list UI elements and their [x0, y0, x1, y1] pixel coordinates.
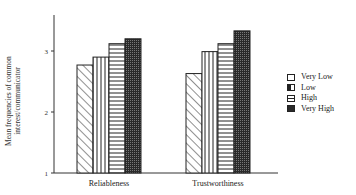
legend-swatch-diagonal-icon	[287, 74, 295, 81]
legend-swatch-vertical-icon	[287, 84, 295, 91]
legend-item-high: High	[287, 93, 334, 104]
bar-reliableness-very-low	[77, 65, 93, 173]
legend: Very Low Low High Very High	[287, 72, 334, 114]
x-axis-labels: ReliablenessTrustworthiness	[89, 179, 244, 188]
y-tick-label: 3	[45, 48, 49, 56]
legend-item-very-low: Very Low	[287, 72, 334, 83]
bar-trustworthiness-very-high	[234, 31, 250, 173]
bar-trustworthiness-high	[218, 44, 234, 173]
x-category-label: Trustworthiness	[192, 179, 243, 188]
y-axis-label: Mean frequencies of common interest/comm…	[4, 26, 22, 176]
bars	[77, 31, 250, 173]
legend-swatch-dark-icon	[287, 105, 295, 112]
legend-swatch-horizontal-icon	[287, 95, 295, 102]
x-category-label: Reliableness	[89, 179, 129, 188]
bar-trustworthiness-very-low	[186, 74, 202, 173]
bar-reliableness-very-high	[125, 39, 141, 173]
legend-label: Very Low	[301, 72, 333, 83]
bar-trustworthiness-low	[202, 52, 218, 173]
legend-label: High	[301, 93, 317, 104]
legend-item-low: Low	[287, 83, 334, 94]
legend-label: Very High	[301, 104, 334, 115]
bar-reliableness-high	[109, 44, 125, 173]
legend-item-very-high: Very High	[287, 104, 334, 115]
bar-reliableness-low	[93, 57, 109, 173]
y-tick-label: 2	[45, 109, 49, 117]
legend-label: Low	[301, 83, 316, 94]
y-tick-label: 1	[45, 170, 49, 178]
